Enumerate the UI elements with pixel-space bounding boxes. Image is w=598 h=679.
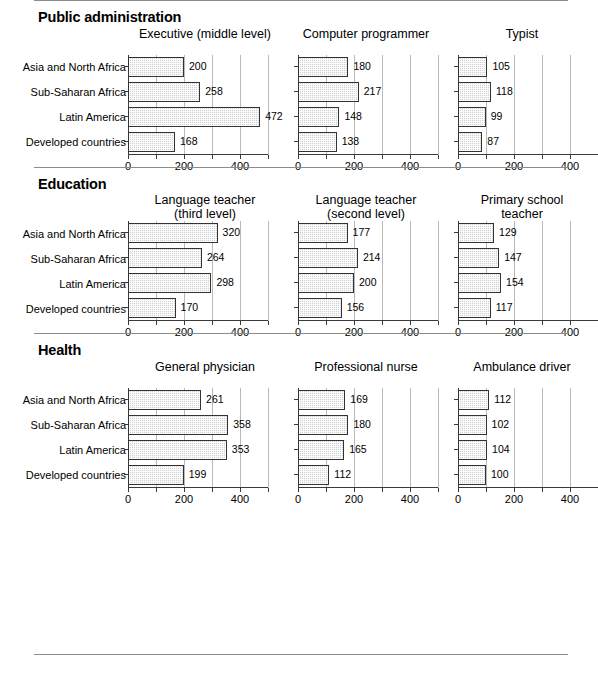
bar-row: 199: [128, 463, 268, 488]
chart-panel: Primary schoolteacher1291471541170200400: [446, 193, 598, 333]
bar: [458, 82, 491, 102]
bar-value-label: 358: [233, 418, 251, 430]
axis-tick: [128, 321, 129, 325]
plot-area: 10511899870200400: [446, 55, 598, 167]
chart-section: EducationLanguage teacher(third level)As…: [0, 167, 598, 334]
bar: [128, 223, 218, 243]
axis-tick: [298, 321, 299, 325]
axis-tick: [156, 488, 157, 492]
bar-value-label: 200: [189, 60, 207, 72]
bars-plot: 112102104100: [458, 388, 598, 488]
axis-tick: [458, 321, 459, 325]
axis-tick: [240, 155, 241, 159]
panel-title-line2: teacher: [446, 208, 598, 222]
bar: [298, 132, 337, 152]
bar-row: 353: [128, 438, 268, 463]
plot-area: 1772142001560200400: [286, 221, 446, 333]
axis-tick: [354, 155, 355, 159]
gridline: [438, 388, 439, 488]
bar: [458, 223, 494, 243]
chart-panel: Ambulance driver1121021041000200400: [446, 360, 598, 500]
bar-value-label: 320: [223, 226, 241, 238]
bar: [298, 82, 359, 102]
bar: [128, 440, 227, 460]
bar: [128, 415, 228, 435]
bar: [128, 82, 200, 102]
axis-tick: [298, 488, 299, 492]
bar: [458, 57, 487, 77]
bar: [298, 273, 354, 293]
panel-title-line1: Executive (middle level): [139, 27, 271, 41]
chart-panel: Language teacher(second level)1772142001…: [286, 193, 446, 333]
axis-tick: [514, 488, 515, 492]
bar: [458, 132, 482, 152]
value-axis: 0200400: [128, 488, 268, 502]
axis-tick: [570, 155, 571, 159]
axis-tick: [410, 488, 411, 492]
axis-tick: [438, 155, 439, 159]
bar-row: 261: [128, 388, 268, 413]
axis-tick: [212, 321, 213, 325]
gridline: [438, 221, 439, 321]
category-label: Sub-Saharan Africa: [31, 87, 126, 98]
bar-value-label: 261: [206, 393, 224, 405]
bar-row: 320: [128, 221, 268, 246]
chart-panel: Typist10511899870200400: [446, 27, 598, 167]
chart-section: Public administrationExecutive (middle l…: [0, 0, 598, 167]
panel-title-line1: Language teacher: [316, 193, 417, 207]
bar: [458, 107, 486, 127]
panel-title: Professional nurse: [286, 360, 446, 388]
plot-area: 1291471541170200400: [446, 221, 598, 333]
bar-value-label: 165: [349, 443, 367, 455]
panel-row: Language teacher(third level)Asia and No…: [0, 193, 598, 333]
panel-title: Typist: [446, 27, 598, 55]
bar-row: 112: [458, 388, 598, 413]
bars-plot: 129147154117: [458, 221, 598, 321]
bar: [128, 273, 211, 293]
axis-tick-label: 0: [455, 493, 461, 505]
bars-plot: 320264298170: [128, 221, 268, 321]
bar: [128, 390, 201, 410]
bar-row: 105: [458, 55, 598, 80]
panel-title-line1: Professional nurse: [314, 360, 418, 374]
bars-plot: 261358353199: [128, 388, 268, 488]
category-label: Asia and North Africa: [23, 62, 126, 73]
bar-row: 170: [128, 296, 268, 321]
bar-row: 200: [298, 271, 438, 296]
axis-tick: [354, 321, 355, 325]
gridline: [438, 55, 439, 155]
panel-title-line1: Typist: [506, 27, 539, 41]
bars-plot: 200258472168: [128, 55, 268, 155]
category-label: Latin America: [59, 278, 126, 289]
bar-row: 118: [458, 80, 598, 105]
axis-tick: [410, 155, 411, 159]
bar-row: 129: [458, 221, 598, 246]
chart-panel: Computer programmer1802171481380200400: [286, 27, 446, 167]
bar-row: 177: [298, 221, 438, 246]
category-label: Developed countries: [26, 137, 126, 148]
bar-value-label: 148: [344, 110, 362, 122]
bar: [128, 465, 184, 485]
bottom-divider: [34, 654, 568, 655]
bar-row: 117: [458, 296, 598, 321]
axis-tick-label: 400: [561, 493, 579, 505]
plot-area: Asia and North AfricaSub-Saharan AfricaL…: [6, 221, 286, 333]
bar-row: 112: [298, 463, 438, 488]
bar-row: 148: [298, 105, 438, 130]
axis-tick: [410, 321, 411, 325]
bar: [458, 248, 499, 268]
axis-tick: [156, 155, 157, 159]
category-axis: Asia and North AfricaSub-Saharan AfricaL…: [6, 221, 126, 321]
bar-value-label: 168: [180, 135, 198, 147]
bar: [298, 465, 329, 485]
bar-row: 165: [298, 438, 438, 463]
axis-tick: [382, 321, 383, 325]
bar: [298, 248, 358, 268]
axis-tick-label: 200: [345, 493, 363, 505]
bars-plot: 177214200156: [298, 221, 438, 321]
axis-tick: [240, 488, 241, 492]
category-label: Latin America: [59, 445, 126, 456]
axis-tick-label: 400: [231, 493, 249, 505]
bar: [298, 415, 348, 435]
bar-row: 100: [458, 463, 598, 488]
